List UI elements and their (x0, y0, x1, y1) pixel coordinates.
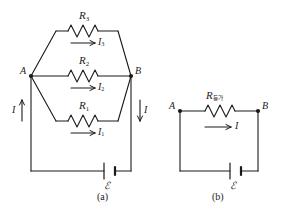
main-current-label-out: I (144, 105, 147, 115)
panel-a-outer-loop (31, 76, 131, 171)
main-current-arrow-in (20, 100, 25, 121)
current-arrow-b (205, 125, 231, 130)
circuit-svg (0, 0, 282, 215)
battery-b (230, 163, 241, 179)
current-label-i1: I1 (98, 127, 104, 138)
current-subscript-i2: 2 (101, 85, 104, 92)
node-label-a: A (20, 66, 26, 76)
current-arrow-i2 (71, 86, 95, 91)
node-dot-a-b (178, 109, 182, 113)
emf-label-b: ℰ (230, 181, 236, 191)
resistor-label-r3: R3 (79, 10, 89, 22)
emf-label-a: ℰ (104, 181, 110, 191)
node-dot-a (29, 74, 33, 78)
node-dot-b-b (256, 109, 260, 113)
node-label-a-b: A (169, 101, 175, 111)
main-current-arrow-out (138, 100, 143, 121)
resistor-label-r1: R1 (79, 100, 89, 112)
main-current-label-in: I (12, 105, 15, 115)
node-dot-b (129, 74, 133, 78)
node-label-b-b: B (262, 101, 268, 111)
current-subscript-i3: 3 (101, 40, 104, 47)
resistor-subscript-r2: 2 (86, 60, 89, 67)
current-label-i2: I2 (98, 82, 104, 93)
resistor-label-r2: R2 (79, 55, 89, 67)
current-label-b: I (235, 121, 238, 131)
resistor-label-equivalent: R등가 (206, 90, 223, 102)
panel-b-loop (180, 105, 258, 171)
battery-a (104, 163, 115, 179)
current-label-i3: I3 (98, 37, 104, 48)
circuit-figure: R3 I3 R2 I2 R1 I1 A B I I ℰ (a) R등가 I A … (0, 0, 282, 215)
branch-r2 (31, 70, 131, 82)
branch-r3 (31, 25, 131, 76)
current-subscript-i1: 1 (101, 130, 104, 137)
node-label-b: B (135, 66, 141, 76)
current-arrow-i1 (71, 131, 95, 136)
current-arrow-i3 (71, 41, 95, 46)
resistor-subscript-r1: 1 (86, 105, 89, 112)
resistor-subscript-r3: 3 (86, 15, 89, 22)
resistor-subscript-equivalent: 등가 (213, 95, 223, 101)
caption-b: (b) (212, 192, 224, 202)
caption-a: (a) (97, 192, 108, 202)
